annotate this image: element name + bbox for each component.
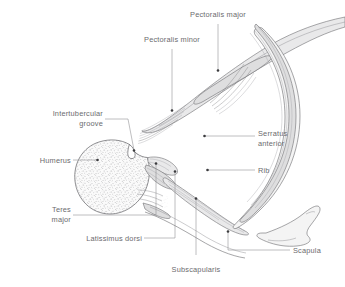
label-teres-major-line1: Teres <box>52 205 71 214</box>
humerus <box>70 136 156 218</box>
label-intertubercular-line2: groove <box>79 119 103 128</box>
label-intertubercular-line1: Intertubercular <box>53 109 104 118</box>
label-serratus-line2: anterior <box>258 139 285 148</box>
scapula <box>257 206 320 246</box>
label-pectoralis-major: Pectoralis major <box>190 10 246 19</box>
label-rib: Rib <box>258 166 270 175</box>
label-subscapularis: Subscapularis <box>172 265 221 274</box>
anatomy-figure: Pectoralis major Pectoralis minor Intert… <box>0 0 345 287</box>
label-latissimus-dorsi: Latissimus dorsi <box>86 234 142 243</box>
label-serratus-line1: Serratus <box>258 129 287 138</box>
label-pectoralis-minor: Pectoralis minor <box>144 35 200 44</box>
label-teres-major-line2: major <box>52 215 72 224</box>
label-humerus: Humerus <box>40 156 71 165</box>
label-scapula: Scapula <box>293 246 322 255</box>
